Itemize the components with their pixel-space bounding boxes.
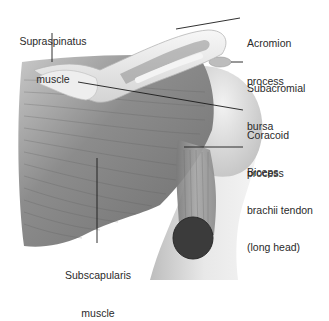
label-line: Supraspinatus <box>18 35 88 48</box>
label-line: (long head) <box>247 241 313 254</box>
label-biceps-brachii-tendon: Biceps brachii tendon (long head) <box>247 141 313 266</box>
leader-acromion <box>176 18 240 29</box>
label-line: Coracoid <box>247 129 289 142</box>
label-supraspinatus-muscle: Supraspinatus muscle <box>18 10 88 98</box>
label-line: muscle <box>18 73 88 86</box>
label-line: Acromion <box>247 37 291 50</box>
label-line: Subacromial <box>247 82 305 95</box>
label-line: muscle <box>58 307 138 320</box>
biceps-tendon-shape <box>173 140 216 259</box>
label-subscapularis-muscle: Subscapularis muscle <box>58 244 138 321</box>
label-line: Biceps <box>247 166 313 179</box>
label-line: Subscapularis <box>58 269 138 282</box>
label-line: brachii tendon <box>247 204 313 217</box>
